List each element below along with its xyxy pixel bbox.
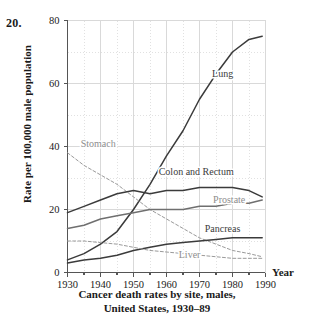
- svg-text:20: 20: [49, 204, 60, 215]
- svg-text:Liver: Liver: [179, 249, 201, 260]
- svg-text:Prostate: Prostate: [213, 194, 246, 205]
- chart-plot-area: 0204060801930194019501960197019801990 Lu…: [0, 0, 314, 324]
- svg-text:40: 40: [49, 141, 60, 152]
- series-labels: LungLungStomachStomachColon and RectumCo…: [81, 68, 246, 260]
- svg-text:80: 80: [49, 15, 60, 26]
- svg-text:Lung: Lung: [212, 68, 233, 79]
- caption-line-2: United States, 1930–89: [0, 301, 314, 315]
- svg-text:60: 60: [49, 78, 60, 89]
- svg-text:Colon and Rectum: Colon and Rectum: [159, 166, 234, 177]
- svg-text:Stomach: Stomach: [81, 138, 116, 149]
- svg-text:Pancreas: Pancreas: [205, 223, 241, 234]
- figure-cancer-death-rates: 20. Rate per 100,000 male population Yea…: [0, 0, 314, 324]
- axis-ticks: 0204060801930194019501960197019801990: [49, 15, 276, 289]
- figure-caption: Cancer death rates by site, males, Unite…: [0, 287, 314, 315]
- caption-line-1: Cancer death rates by site, males,: [0, 287, 314, 301]
- svg-text:0: 0: [54, 267, 59, 278]
